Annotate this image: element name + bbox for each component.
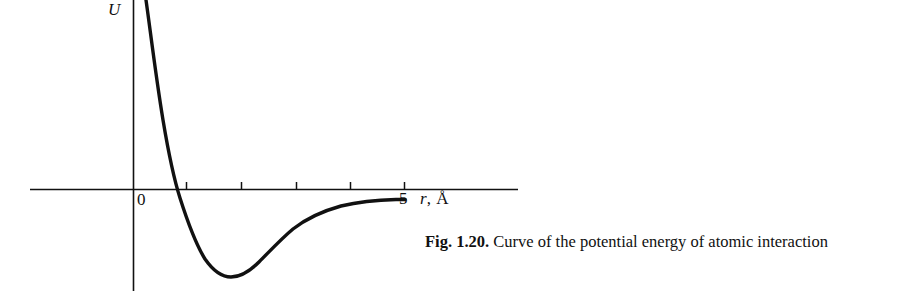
figure-number: Fig. 1.20. xyxy=(425,232,489,251)
x-axis-variable: r xyxy=(420,189,427,208)
figure-caption: Fig. 1.20. Curve of the potential energy… xyxy=(425,231,893,252)
potential-energy-curve xyxy=(146,0,405,277)
x-axis-label: r, Å xyxy=(420,190,448,207)
x-axis-separator: , xyxy=(427,189,432,208)
figure-caption-text: Curve of the potential energy of atomic … xyxy=(493,232,828,251)
origin-label: 0 xyxy=(137,191,146,208)
figure-page: U 0 5 r, Å Fig. 1.20. Curve of the poten… xyxy=(0,0,915,298)
x-tick-label-5: 5 xyxy=(399,190,408,207)
plot-canvas xyxy=(0,0,560,298)
potential-energy-plot: U 0 5 r, Å xyxy=(0,0,560,298)
x-axis-ticks xyxy=(187,182,405,189)
y-axis-label: U xyxy=(108,1,120,18)
x-axis-unit: Å xyxy=(436,189,448,208)
